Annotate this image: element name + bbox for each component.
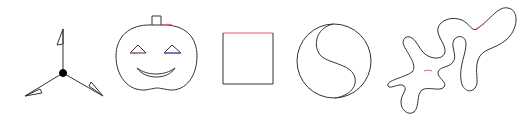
blob-accent-top [476,24,484,29]
pumpkin-shape [116,16,197,90]
spoke-left [25,73,63,96]
pumpkin-smile [137,68,175,77]
spoke-right [63,73,103,96]
yin-yang-shape [297,24,371,98]
pumpkin-body [116,25,197,90]
square-shape [223,33,273,84]
yin-yang-circle [297,24,371,98]
drawing-canvas [0,0,525,120]
drawing-svg [0,0,525,120]
blob-accent-mid [424,70,432,71]
yin-yang-curve [316,24,355,98]
blob-outline [388,8,516,113]
flag-up-icon [57,29,63,45]
left-eye [130,45,146,53]
pumpkin-stem [152,16,161,25]
blob-shape [388,8,516,113]
tri-spoke-shape [25,29,103,96]
square-sides [223,33,273,84]
right-eye [164,45,181,53]
flag-left-icon [25,89,42,96]
center-dot [60,70,67,77]
